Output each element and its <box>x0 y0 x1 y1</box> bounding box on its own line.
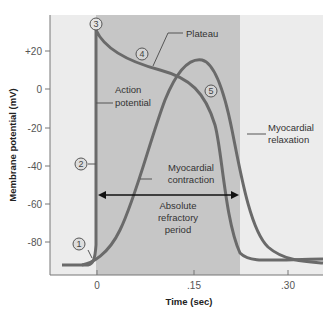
x-tick-label: .30 <box>281 280 295 291</box>
y-axis-title: Membrane potential (mV) <box>7 88 18 202</box>
y-tick-label: -40 <box>28 161 43 172</box>
svg-text:5: 5 <box>208 86 213 96</box>
marker-5: 5 <box>205 85 217 97</box>
svg-text:3: 3 <box>93 19 98 29</box>
refractory-period-label: Absolute <box>160 200 197 211</box>
y-tick-label: -80 <box>28 237 43 248</box>
myocardial-relaxation-label: relaxation <box>268 134 309 145</box>
x-axis-title: Time (sec) <box>166 296 213 307</box>
cardiac-action-potential-diagram: +20 0 -20 -40 -60 -80 0 .15 .30 Time (se… <box>0 0 329 315</box>
marker-2: 2 <box>75 158 87 170</box>
y-tick-label: +20 <box>25 46 42 57</box>
svg-text:1: 1 <box>76 239 81 249</box>
marker-1: 1 <box>73 238 85 250</box>
refractory-period-label: period <box>165 224 191 235</box>
action-potential-label: Action <box>115 84 141 95</box>
myocardial-relaxation-label: Myocardial <box>268 122 314 133</box>
refractory-period-label: refractory <box>158 212 198 223</box>
x-tick-label: .15 <box>187 280 201 291</box>
y-tick-label: 0 <box>36 84 42 95</box>
myocardial-contraction-label: Myocardial <box>168 162 214 173</box>
action-potential-label: potential <box>115 97 151 108</box>
marker-3: 3 <box>90 18 102 30</box>
y-tick-label: -60 <box>28 199 43 210</box>
x-tick-label: 0 <box>94 280 100 291</box>
plateau-label: Plateau <box>186 28 218 39</box>
svg-text:2: 2 <box>78 159 83 169</box>
y-tick-label: -20 <box>28 123 43 134</box>
svg-text:4: 4 <box>139 49 144 59</box>
y-ticks <box>45 51 50 242</box>
marker-4: 4 <box>136 48 148 60</box>
myocardial-contraction-label: contraction <box>168 174 214 185</box>
